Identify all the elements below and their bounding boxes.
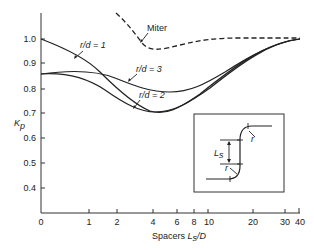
y-tick-label: 0.8 bbox=[23, 84, 36, 94]
annotation-miter: Miter bbox=[140, 23, 167, 43]
y-tick-label: 0.7 bbox=[23, 108, 36, 118]
y-tick-label: 0.9 bbox=[23, 58, 36, 68]
x-tick-label: 40 bbox=[295, 217, 305, 227]
x-tick-label: 0 bbox=[38, 217, 43, 227]
svg-text:r/d = 2: r/d = 2 bbox=[139, 90, 165, 100]
x-axis-label: Spacers Ls/D bbox=[152, 231, 207, 243]
x-tick-label: 4 bbox=[150, 217, 155, 227]
series-rd1 bbox=[41, 39, 300, 112]
x-tick-label: 30 bbox=[280, 217, 290, 227]
series-miter bbox=[116, 13, 300, 49]
svg-text:r/d = 3: r/d = 3 bbox=[136, 64, 162, 74]
annotation-rd3: r/d = 3 bbox=[128, 64, 162, 82]
svg-text:Miter: Miter bbox=[147, 23, 167, 33]
x-axis: 0 1 2 4 6 8 10 20 30 40 Spacers Ls/D bbox=[38, 208, 305, 243]
x-tick-label: 2 bbox=[114, 217, 119, 227]
chart: 1.0 0.9 0.8 0.7 0.6 0.5 0.4 Kp 0 1 2 4 6… bbox=[0, 0, 314, 250]
x-tick-label: 20 bbox=[248, 217, 258, 227]
y-axis: 1.0 0.9 0.8 0.7 0.6 0.5 0.4 Kp bbox=[14, 13, 45, 213]
inset-bend-diagram: Ls r r bbox=[194, 114, 284, 192]
x-tick-label: 10 bbox=[204, 217, 214, 227]
y-tick-label: 0.5 bbox=[23, 158, 36, 168]
y-tick-label: 0.6 bbox=[23, 133, 36, 143]
y-tick-label: 1.0 bbox=[23, 34, 36, 44]
y-tick-label: 0.4 bbox=[23, 183, 36, 193]
x-tick-label: 6 bbox=[174, 217, 179, 227]
y-axis-label: Kp bbox=[14, 118, 25, 131]
x-tick-label: 8 bbox=[191, 217, 196, 227]
x-tick-label: 1 bbox=[86, 217, 91, 227]
svg-text:r/d = 1: r/d = 1 bbox=[80, 40, 106, 50]
annotation-rd2: r/d = 2 bbox=[133, 90, 165, 109]
